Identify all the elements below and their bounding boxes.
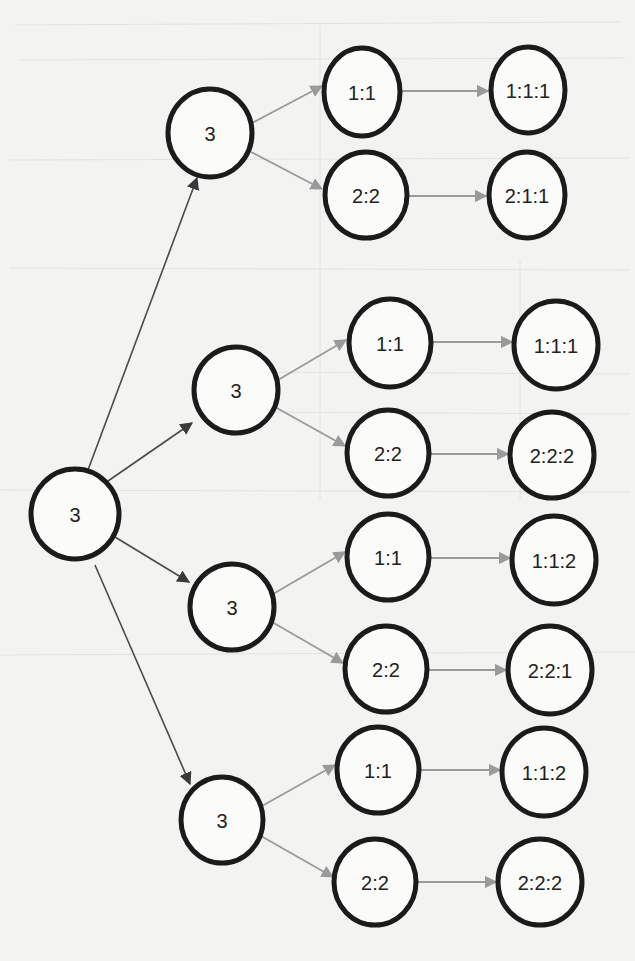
tree-node-b1: 1:1 bbox=[349, 299, 431, 387]
tree-diagram: 333331:12:21:12:21:12:21:12:21:1:12:1:11… bbox=[0, 0, 635, 961]
node-label: 1:1:1 bbox=[534, 335, 578, 357]
tree-node-a1x: 1:1:1 bbox=[491, 47, 565, 133]
arrow-icon-edge-root-to-c bbox=[115, 537, 189, 582]
arrow-icon-edge-d-to-d1 bbox=[262, 765, 335, 806]
tree-node-d: 3 bbox=[181, 777, 263, 863]
node-label: 3 bbox=[204, 123, 215, 145]
tree-node-d2x: 2:2:2 bbox=[498, 839, 582, 925]
tree-node-b2x: 2:2:2 bbox=[510, 412, 594, 498]
tree-node-d1x: 1:1:2 bbox=[502, 728, 586, 816]
node-label: 2:2 bbox=[374, 443, 402, 465]
node-label: 1:1 bbox=[348, 82, 376, 104]
tree-node-d1: 1:1 bbox=[337, 727, 419, 813]
arrow-icon-edge-root-to-b bbox=[108, 423, 192, 481]
node-label: 3 bbox=[216, 810, 227, 832]
arrow-icon-edge-c-to-c1 bbox=[273, 552, 345, 594]
tree-node-root: 3 bbox=[31, 469, 119, 559]
node-label: 1:1:1 bbox=[506, 80, 550, 102]
arrow-icon-edge-a-to-a2 bbox=[251, 152, 322, 189]
tree-node-a2: 2:2 bbox=[325, 152, 407, 238]
node-label: 1:1 bbox=[364, 760, 392, 782]
nodes-layer: 333331:12:21:12:21:12:21:12:21:1:12:1:11… bbox=[31, 47, 598, 925]
tree-node-c1: 1:1 bbox=[347, 514, 429, 600]
arrow-icon-edge-a-to-a1 bbox=[252, 86, 322, 123]
node-label: 1:1:2 bbox=[532, 550, 576, 572]
node-label: 3 bbox=[69, 504, 80, 526]
node-label: 2:2 bbox=[372, 659, 400, 681]
tree-node-c1x: 1:1:2 bbox=[512, 516, 596, 604]
node-label: 2:2 bbox=[361, 872, 389, 894]
tree-node-b2: 2:2 bbox=[347, 410, 429, 496]
node-label: 2:2:2 bbox=[518, 872, 562, 894]
node-label: 1:1 bbox=[376, 333, 404, 355]
node-label: 2:2:1 bbox=[528, 660, 572, 682]
node-label: 1:1:2 bbox=[522, 762, 566, 784]
tree-node-d2: 2:2 bbox=[334, 839, 416, 925]
arrow-icon-edge-root-to-d bbox=[95, 565, 190, 784]
node-label: 2:2:2 bbox=[530, 445, 574, 467]
tree-node-a2x: 2:1:1 bbox=[489, 152, 565, 238]
node-label: 3 bbox=[226, 597, 237, 619]
tree-node-c2x: 2:2:1 bbox=[508, 626, 592, 714]
arrow-icon-edge-root-to-a bbox=[88, 178, 197, 470]
edges-layer bbox=[88, 86, 512, 882]
tree-node-c: 3 bbox=[190, 564, 274, 650]
tree-node-a: 3 bbox=[168, 89, 252, 177]
node-label: 2:2 bbox=[352, 185, 380, 207]
tree-node-c2: 2:2 bbox=[345, 626, 427, 712]
node-label: 2:1:1 bbox=[505, 185, 549, 207]
arrow-icon-edge-c-to-c2 bbox=[272, 622, 343, 663]
tree-node-b1x: 1:1:1 bbox=[514, 301, 598, 389]
arrow-icon-edge-d-to-d2 bbox=[261, 836, 333, 877]
arrow-icon-edge-b-to-b1 bbox=[278, 340, 346, 380]
node-label: 3 bbox=[230, 380, 241, 402]
tree-diagram-page: 333331:12:21:12:21:12:21:12:21:1:12:1:11… bbox=[0, 0, 635, 961]
node-label: 1:1 bbox=[374, 547, 402, 569]
tree-node-a1: 1:1 bbox=[324, 48, 400, 136]
tree-node-b: 3 bbox=[194, 347, 278, 433]
